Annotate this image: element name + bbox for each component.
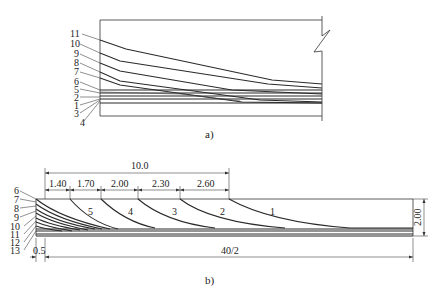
figure-a-caption: a) bbox=[205, 128, 214, 141]
tendon-curve-1 bbox=[229, 199, 413, 228]
end-tendon-fan bbox=[36, 199, 110, 231]
dim-seg-4: 2.30 bbox=[152, 178, 170, 189]
tendon-label-3: 3 bbox=[74, 108, 79, 119]
tendon-11 bbox=[100, 40, 322, 84]
curve-label-3: 3 bbox=[172, 206, 177, 217]
tendon-9 bbox=[100, 63, 322, 94]
curve-label-4: 4 bbox=[128, 206, 133, 217]
dim-seg-5: 2.60 bbox=[197, 178, 215, 189]
curve-label-1: 1 bbox=[270, 206, 275, 217]
figure-a: 11 10 9 8 7 6 5 2 1 3 4 a) bbox=[70, 16, 330, 141]
figure-b: 6 7 8 9 10 11 12 13 5 4 3 2 1 10.0 1.40 … bbox=[10, 160, 428, 287]
figure-b-caption: b) bbox=[205, 274, 215, 287]
leader-lines-b bbox=[20, 191, 36, 250]
tendon-curve-5 bbox=[70, 199, 118, 229]
tendon-label-4: 4 bbox=[80, 117, 85, 128]
dim-half-length: 40/2 bbox=[221, 245, 239, 256]
svg-text:2.00: 2.00 bbox=[412, 209, 423, 227]
curve-label-2: 2 bbox=[220, 206, 225, 217]
beam-outline bbox=[100, 20, 322, 116]
dim-seg-3: 2.00 bbox=[111, 178, 129, 189]
curve-label-5: 5 bbox=[88, 206, 93, 217]
dim-seg-1: 1.40 bbox=[49, 178, 67, 189]
tendon-layout-drawing: 11 10 9 8 7 6 5 2 1 3 4 a) bbox=[0, 0, 434, 293]
dimension-height: 2.00 bbox=[412, 199, 428, 236]
dimension-bottom: 0.5 40/2 bbox=[30, 238, 413, 262]
dim-seg-2: 1.70 bbox=[77, 178, 95, 189]
tendon-label-13: 13 bbox=[10, 245, 20, 256]
dimension-segments: 1.40 1.70 2.00 2.30 2.60 bbox=[45, 178, 229, 199]
leader-lines-a bbox=[80, 34, 100, 121]
dim-end-offset: 0.5 bbox=[33, 245, 46, 256]
svg-text:10.0: 10.0 bbox=[131, 160, 149, 171]
